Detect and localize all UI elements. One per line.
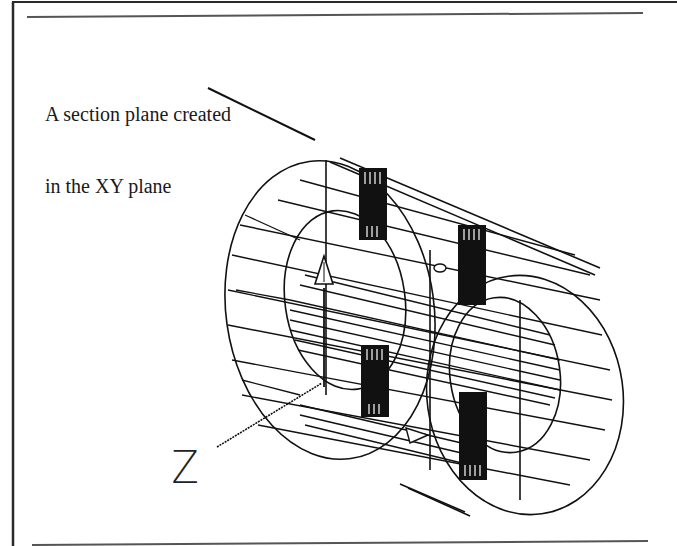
front-inner-ellipse xyxy=(273,203,417,398)
figure-frame: A section plane created in the XY plane … xyxy=(0,0,677,546)
pin-top-right xyxy=(458,225,486,305)
front-face-hatch xyxy=(236,215,300,395)
back-outer-ellipse xyxy=(411,263,638,528)
callout-line-1: A section plane created xyxy=(45,102,231,126)
front-outer-ellipse xyxy=(206,147,454,473)
top-rule xyxy=(27,13,643,17)
cylinder-drawing xyxy=(206,147,639,527)
section-plane-callout: A section plane created in the XY plane xyxy=(45,54,231,246)
callout-line-2: in the XY plane xyxy=(45,174,231,198)
bottom-rule xyxy=(32,541,648,545)
pin-bottom-right xyxy=(459,392,487,480)
pin-bottom-left xyxy=(361,345,389,417)
z-axis-label: Z xyxy=(172,446,199,490)
y-axis-arrow-icon xyxy=(315,256,333,387)
z-leader-line xyxy=(217,383,322,447)
pin-top-left xyxy=(359,168,387,240)
